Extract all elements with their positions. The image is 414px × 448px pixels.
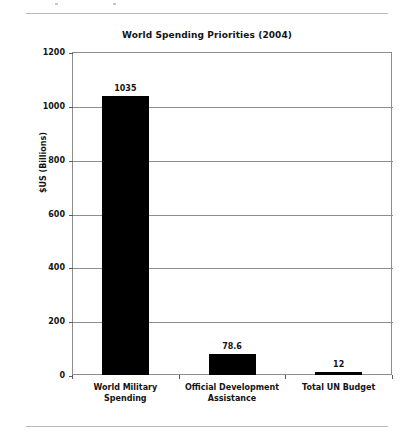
bar [209, 354, 256, 375]
y-axis-tick-label: 0 [3, 372, 65, 380]
y-axis-tick-label: 1200 [3, 49, 65, 57]
x-axis-category-label: Total UN Budget [279, 382, 399, 393]
x-axis-tick [285, 375, 286, 379]
bar-chart-figure: World Spending Priorities (2004) $US (Bi… [0, 0, 414, 448]
x-axis-category-label-line: World Military [65, 382, 185, 393]
bar-value-label: 12 [299, 360, 379, 369]
y-axis-tick [69, 268, 73, 269]
y-axis-tick [69, 107, 73, 108]
x-axis-category-label-line: Assistance [172, 393, 292, 404]
x-axis-category-label-line: Total UN Budget [279, 382, 399, 393]
chart-title: World Spending Priorities (2004) [0, 30, 414, 40]
y-axis-tick-label: 600 [3, 211, 65, 219]
x-axis-category-label-line: Official Development [172, 382, 292, 393]
y-axis-tick [69, 53, 73, 54]
y-axis-tick-label: 200 [3, 318, 65, 326]
bar-value-label: 78.6 [192, 342, 272, 351]
y-axis-tick-label: 1000 [3, 103, 65, 111]
y-axis-tick [69, 322, 73, 323]
x-axis-category-label: Official DevelopmentAssistance [172, 382, 292, 404]
y-axis-tick [69, 215, 73, 216]
x-axis-tick [72, 375, 73, 379]
x-axis-category-label-line: Spending [65, 393, 185, 404]
bar [102, 96, 149, 375]
bar [315, 372, 362, 375]
y-axis-tick-label: 800 [3, 157, 65, 165]
x-axis-tick [179, 375, 180, 379]
x-axis-category-label: World MilitarySpending [65, 382, 185, 404]
x-axis-tick [392, 375, 393, 379]
y-axis-tick [69, 161, 73, 162]
bar-value-label: 1035 [85, 84, 165, 93]
y-axis-tick-label: 400 [3, 264, 65, 272]
